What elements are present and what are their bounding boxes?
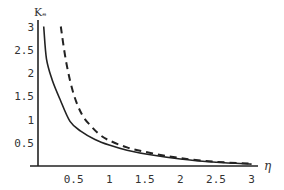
y-tick-label: 2: [27, 67, 34, 80]
dashed-curve: [61, 27, 252, 164]
line-chart: 0.511.522.53 0.511.522.53 η Kₑ: [0, 0, 284, 190]
x-tick-label: 2.5: [206, 173, 226, 186]
y-tick-label: 0.5: [14, 137, 34, 150]
series-group: [44, 27, 252, 165]
x-tick-label: 3: [248, 173, 255, 186]
x-tick-labels: 0.511.522.53: [64, 173, 255, 186]
x-tick-label: 2: [177, 173, 184, 186]
x-tick-label: 0.5: [64, 173, 84, 186]
x-tick-label: 1.5: [135, 173, 155, 186]
y-tick-label: 3: [27, 21, 34, 34]
axes: [30, 20, 258, 166]
y-tick-label: 2.5: [14, 44, 34, 57]
x-axis-label: η: [264, 159, 272, 173]
x-tick-label: 1: [106, 173, 113, 186]
y-axis-label: Kₑ: [34, 6, 46, 19]
y-tick-label: 1: [27, 114, 34, 127]
solid-curve: [44, 27, 252, 165]
y-tick-label: 1.5: [14, 90, 34, 103]
y-tick-labels: 0.511.522.53: [14, 21, 34, 150]
